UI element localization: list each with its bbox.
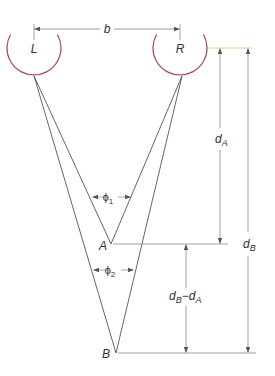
sight-line-L-to-B <box>34 76 116 353</box>
point-B-label: B <box>102 347 110 361</box>
baseline-label: b <box>104 22 111 36</box>
angle-phi2: ϕ2 <box>94 264 133 279</box>
sight-lines <box>34 76 182 353</box>
right-eye-label: R <box>176 42 185 56</box>
depth-difference-label: dB−dA <box>169 289 201 305</box>
left-eye: L <box>7 35 61 75</box>
point-A-label: A <box>98 239 107 253</box>
right-eye: R <box>153 35 207 75</box>
stereo-depth-diagram: b L R ϕ1 ϕ2 A B dA <box>0 0 275 376</box>
baseline-dimension: b <box>34 22 180 40</box>
angle-phi1: ϕ1 <box>93 191 130 206</box>
phi2-label: ϕ2 <box>105 264 116 279</box>
left-eye-label: L <box>31 42 38 56</box>
depth-B-dimension: dB <box>243 49 256 352</box>
depth-A-label: dA <box>215 132 228 148</box>
depth-B-label: dB <box>243 237 256 253</box>
sight-line-R-to-A <box>111 76 182 244</box>
phi1-label: ϕ1 <box>103 191 114 206</box>
depth-A-dimension: dA <box>215 49 228 243</box>
sight-line-R-to-B <box>116 76 182 353</box>
sight-line-L-to-A <box>34 76 111 244</box>
depth-difference-dimension: dB−dA <box>169 245 201 352</box>
